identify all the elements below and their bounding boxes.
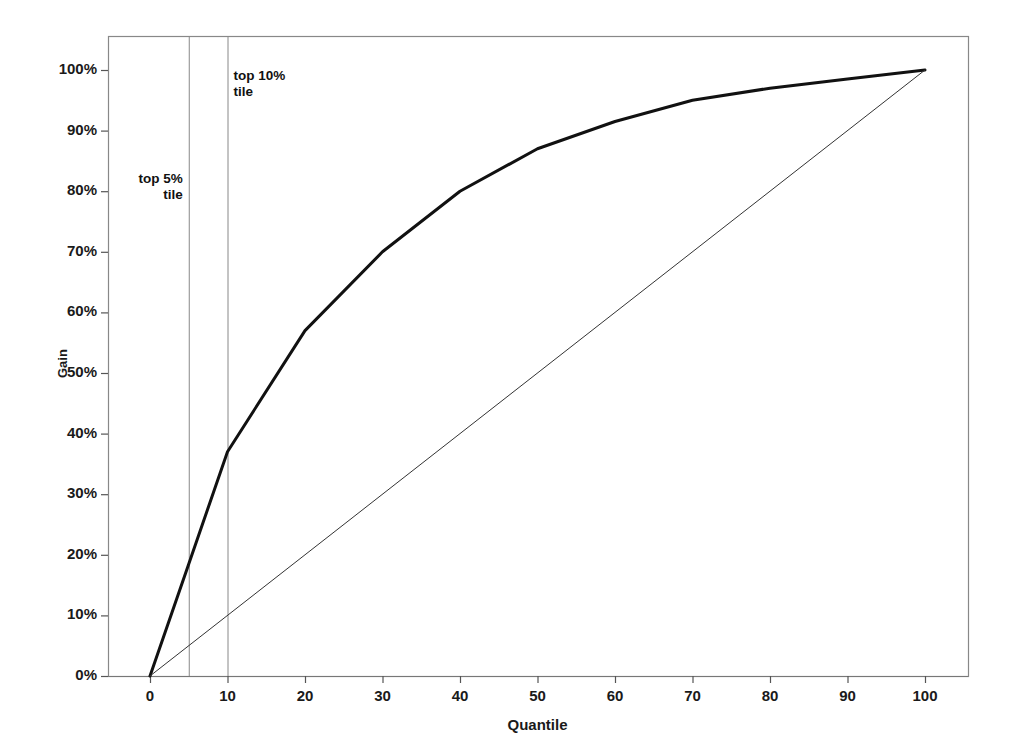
- y-tick-label-5: 50%: [67, 363, 97, 380]
- top-5-annotation: top 5%tile: [138, 171, 182, 203]
- plot-frame: [109, 37, 969, 677]
- x-tick-label-1: 10: [188, 687, 268, 704]
- y-tick-label-8: 80%: [67, 181, 97, 198]
- x-tick-label-6: 60: [575, 687, 655, 704]
- y-tick-label-4: 40%: [67, 424, 97, 441]
- x-tick-label-9: 90: [808, 687, 888, 704]
- y-tick-label-9: 90%: [67, 121, 97, 138]
- top-10-annotation: top 10%tile: [234, 68, 286, 100]
- y-axis-title: Gain: [55, 349, 70, 378]
- y-tick-label-3: 30%: [67, 484, 97, 501]
- y-tick-label-7: 70%: [67, 242, 97, 259]
- y-tick-label-6: 60%: [67, 302, 97, 319]
- x-tick-label-3: 30: [343, 687, 423, 704]
- top-10-annotation-line1: top 10%: [234, 68, 286, 84]
- y-tick-label-0: 0%: [75, 666, 97, 683]
- x-tick-label-0: 0: [110, 687, 190, 704]
- gain-chart: 0%10%20%30%40%50%60%70%80%90%100%0102030…: [0, 0, 1012, 753]
- plot-canvas: [0, 0, 1012, 753]
- x-tick-label-7: 70: [653, 687, 733, 704]
- top-10-annotation-line2: tile: [234, 84, 286, 100]
- y-tick-label-10: 100%: [59, 60, 97, 77]
- x-tick-label-10: 100: [885, 687, 965, 704]
- top-5-annotation-line1: top 5%: [138, 171, 182, 187]
- y-tick-label-2: 20%: [67, 545, 97, 562]
- x-tick-label-8: 80: [730, 687, 810, 704]
- x-axis-title: Quantile: [32, 716, 1012, 733]
- series-line-1: [150, 70, 925, 676]
- y-tick-label-1: 10%: [67, 605, 97, 622]
- x-tick-label-5: 50: [498, 687, 578, 704]
- x-tick-label-4: 40: [420, 687, 500, 704]
- top-5-annotation-line2: tile: [138, 187, 182, 203]
- x-tick-label-2: 20: [265, 687, 345, 704]
